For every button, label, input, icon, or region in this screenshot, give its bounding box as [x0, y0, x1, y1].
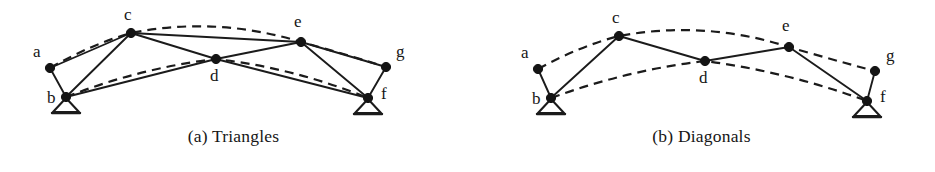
joint-e [296, 37, 305, 46]
member-b-d [66, 59, 216, 97]
member-e-f [789, 47, 867, 101]
joint-a [45, 63, 54, 72]
joint-label-f: f [880, 87, 886, 106]
truss-diagram-triangles: abcdefg [0, 0, 467, 130]
panel-diagonals: abcdefg (b) Diagonals [468, 0, 935, 172]
joint-label-a: a [33, 42, 41, 61]
joint-label-c: c [124, 5, 132, 24]
member-c-d [619, 36, 705, 61]
member-a-c [50, 33, 131, 68]
joint-g [870, 66, 879, 75]
joint-f [862, 96, 871, 105]
figure-root: abcdefg (a) Triangles abcdefg (b) Diagon… [0, 0, 935, 172]
panel-triangles: abcdefg (a) Triangles [0, 0, 467, 172]
member-b-c [551, 36, 619, 98]
joint-label-e: e [294, 12, 302, 31]
joint-label-e: e [782, 16, 790, 35]
joint-label-d: d [699, 68, 708, 87]
joint-g [381, 62, 390, 71]
cable-lower-cable [551, 61, 867, 101]
joint-a [533, 64, 542, 73]
joint-label-g: g [396, 42, 405, 61]
joint-f [363, 93, 372, 102]
caption-diagonals: (b) Diagonals [468, 126, 935, 147]
caption-triangles: (a) Triangles [0, 126, 467, 147]
joint-label-c: c [612, 8, 620, 27]
joint-label-b: b [532, 89, 541, 108]
joint-label-d: d [210, 66, 219, 85]
member-b-c [66, 33, 131, 97]
member-d-e [705, 47, 789, 61]
joint-label-f: f [381, 84, 387, 103]
joint-d [700, 56, 709, 65]
joint-label-a: a [521, 43, 529, 62]
joint-label-g: g [886, 46, 895, 65]
member-e-g [301, 42, 386, 67]
joint-c [126, 28, 135, 37]
joint-b [546, 93, 555, 102]
joint-d [211, 54, 220, 63]
joint-c [614, 31, 623, 40]
member-d-e [216, 42, 301, 59]
joint-b [61, 92, 70, 101]
joint-label-b: b [47, 88, 56, 107]
joint-e [784, 42, 793, 51]
truss-diagram-diagonals: abcdefg [468, 0, 935, 130]
